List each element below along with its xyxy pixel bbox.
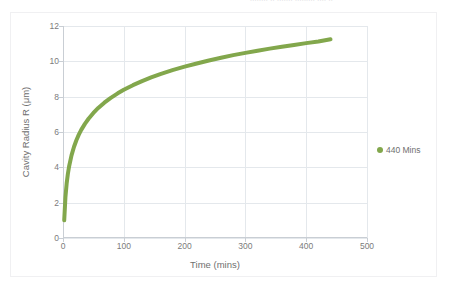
legend-marker-icon	[377, 147, 383, 153]
x-axis-ticks: 0100200300400500	[63, 242, 367, 256]
x-tick-label: 500	[347, 242, 387, 251]
y-axis-title: Cavity Radius R (μm)	[19, 26, 33, 238]
x-tick-label: 100	[104, 242, 144, 251]
legend-label: 440 Mins	[386, 145, 421, 155]
chart-legend[interactable]: 440 Mins	[377, 145, 421, 155]
plot-area	[63, 26, 367, 238]
x-tick-label: 0	[43, 242, 83, 251]
series-path	[64, 39, 330, 220]
x-tick-label: 200	[165, 242, 205, 251]
x-axis-title: Time (mins)	[63, 259, 367, 270]
x-tick-label: 300	[225, 242, 265, 251]
chart-canvas: 024681012 0100200300400500 Time (mins) C…	[11, 13, 438, 278]
clipped-header-text: ........ .. ....... ......... .... ..	[250, 0, 333, 2]
clipped-header-strip: ........ .. ....... ......... .... ..	[0, 0, 449, 8]
series-line-440-mins[interactable]	[63, 26, 367, 238]
chart-object-frame[interactable]: 024681012 0100200300400500 Time (mins) C…	[10, 12, 437, 277]
x-tick-label: 400	[286, 242, 326, 251]
